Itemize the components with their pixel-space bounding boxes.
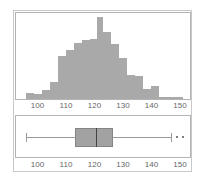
- histogram-bar: [58, 56, 66, 99]
- histogram-bar: [119, 58, 127, 99]
- boxplot-tick-label: 110: [60, 160, 73, 169]
- histogram-bar: [90, 39, 97, 99]
- boxplot-tick-label: 140: [145, 160, 158, 169]
- histogram-bar: [66, 50, 74, 99]
- whisker-cap-low: [26, 133, 27, 142]
- whisker-cap-high: [171, 133, 172, 142]
- histogram-bar: [103, 32, 111, 99]
- histogram-tick-label: 120: [88, 101, 101, 110]
- histogram-tick-label: 110: [60, 101, 73, 110]
- histogram-bar: [42, 90, 50, 99]
- boxplot-tick-label: 130: [116, 160, 129, 169]
- histogram-bar: [111, 44, 119, 99]
- outlier-point: [182, 136, 184, 138]
- histogram-tick-label: 100: [31, 101, 44, 110]
- histogram-tick-label: 140: [145, 101, 158, 110]
- histogram-bar: [151, 86, 159, 99]
- histogram-bar: [74, 43, 82, 99]
- histogram-tick-label: 150: [173, 101, 186, 110]
- histogram-tick-label: 130: [116, 101, 129, 110]
- histogram-bar: [175, 97, 183, 99]
- boxplot-tick-label: 150: [173, 160, 186, 169]
- histogram-panel: [15, 12, 191, 100]
- histogram-bar: [34, 94, 42, 99]
- histogram-bar: [50, 82, 58, 99]
- boxplot-tick-label: 100: [31, 160, 44, 169]
- median-line: [96, 128, 97, 147]
- histogram-bar: [135, 76, 143, 99]
- boxplot-panel: [15, 115, 191, 158]
- histogram-bar: [143, 89, 151, 99]
- outlier-point: [176, 136, 178, 138]
- iqr-box: [75, 128, 113, 147]
- histogram-bar: [159, 97, 167, 99]
- histogram-bar: [26, 93, 34, 100]
- histogram-bar: [82, 40, 90, 99]
- histogram-bar: [127, 75, 135, 99]
- boxplot-tick-label: 120: [88, 160, 101, 169]
- histogram-bar: [167, 97, 175, 99]
